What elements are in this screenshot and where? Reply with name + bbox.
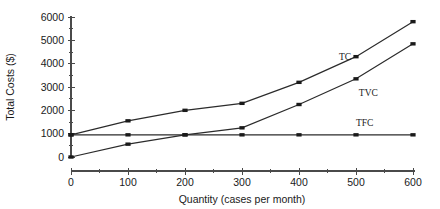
series-tfc [68, 133, 415, 136]
series-marker-tc [353, 55, 358, 58]
chart-canvas: 0100020003000400050006000 Total Costs ($… [0, 0, 440, 209]
x-tick-label: 100 [119, 176, 137, 188]
y-tick-label: 2000 [41, 104, 65, 116]
series-marker-tfc [182, 133, 187, 136]
series-marker-tc [410, 20, 415, 23]
series-marker-tfc [410, 133, 415, 136]
series-marker-tvc [296, 103, 301, 106]
series-marker-tc [182, 109, 187, 112]
series-marker-tfc [68, 133, 73, 136]
y-axis-title: Total Costs ($) [4, 53, 16, 121]
series-tvc [68, 42, 415, 159]
x-axis-title: Quantity (cases per month) [179, 193, 306, 205]
cost-curves-chart: 0100020003000400050006000 Total Costs ($… [0, 0, 440, 209]
series-label-tvc: TVC [359, 88, 378, 98]
y-axis-tick-labels: 0100020003000400050006000 [41, 11, 65, 163]
series-marker-tvc [239, 126, 244, 129]
x-tick-label: 300 [233, 176, 251, 188]
x-axis-group: 0100200300400500600 Quantity (cases per … [68, 168, 422, 206]
series-marker-tvc [410, 42, 415, 45]
y-tick-label: 1000 [41, 127, 65, 139]
series-marker-tfc [353, 133, 358, 136]
x-tick-label: 600 [404, 176, 422, 188]
x-axis-tick-labels: 0100200300400500600 [68, 176, 422, 188]
y-axis-group: 0100020003000400050006000 Total Costs ($… [4, 11, 75, 163]
series-marker-tfc [239, 133, 244, 136]
series-marker-tvc [353, 77, 358, 80]
x-tick-label: 400 [290, 176, 308, 188]
y-tick-label: 4000 [41, 57, 65, 69]
series-line-tvc [71, 44, 413, 157]
y-tick-label: 3000 [41, 81, 65, 93]
series-marker-tfc [125, 133, 130, 136]
series-label-tc: TC [339, 52, 351, 62]
y-tick-label: 5000 [41, 34, 65, 46]
series-marker-tc [125, 119, 130, 122]
series-marker-tvc [68, 155, 73, 158]
x-tick-label: 200 [176, 176, 194, 188]
y-tick-label: 6000 [41, 11, 65, 23]
series-label-tfc: TFC [356, 118, 373, 128]
x-tick-label: 0 [68, 176, 74, 188]
y-tick-label: 0 [58, 151, 64, 163]
x-tick-label: 500 [347, 176, 365, 188]
series-labels-group: TCTVCTFC [339, 52, 378, 128]
series-marker-tvc [125, 142, 130, 145]
series-marker-tc [296, 81, 301, 84]
series-marker-tc [239, 102, 244, 105]
series-marker-tfc [296, 133, 301, 136]
